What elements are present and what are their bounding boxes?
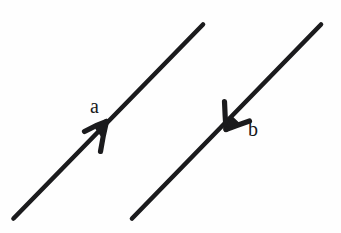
vector-diagram-canvas	[0, 0, 341, 233]
figure-background	[0, 0, 341, 233]
figure-root: a b	[0, 0, 341, 233]
segment-b-arrowhead-barb-up	[225, 102, 227, 130]
vector-label-b: b	[248, 119, 258, 139]
vector-label-a: a	[90, 96, 99, 116]
